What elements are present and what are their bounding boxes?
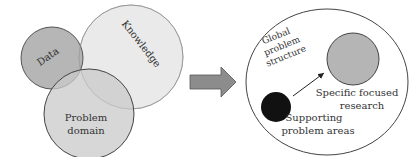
supporting-label-line1: Supporting (286, 112, 344, 123)
diagram-canvas: Data Knowledge Problem domain Global pro… (0, 0, 412, 157)
problem-domain-label-line2: domain (67, 125, 105, 136)
supporting-label-line2: problem areas (281, 125, 354, 136)
transition-arrow-icon (190, 67, 236, 97)
focused-label-line2: research (340, 100, 385, 111)
problem-domain-label-line1: Problem (65, 112, 108, 123)
global-problem-structure: Global problem structure Specific focuse… (246, 9, 408, 155)
focused-label-line1: Specific focused (316, 87, 399, 98)
venn-diagram: Data Knowledge Problem domain (21, 5, 183, 157)
focused-research-circle (327, 33, 379, 85)
